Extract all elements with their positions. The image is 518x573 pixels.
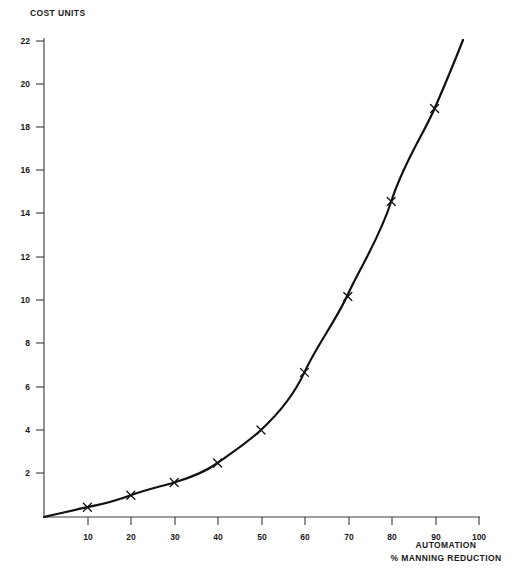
x-tick-label: 70 — [337, 532, 361, 542]
x-tick-label: 40 — [206, 532, 230, 542]
chart-container: COST UNITS — [0, 0, 518, 573]
x-tick-label: 20 — [119, 532, 143, 542]
marker-point — [431, 105, 439, 113]
y-tick-label: 4 — [10, 425, 30, 435]
x-axis-title-line1: AUTOMATION — [378, 540, 514, 550]
y-tick-label: 6 — [10, 382, 30, 392]
x-axis-title-line2: % MANNING REDUCTION — [378, 553, 514, 563]
y-tick-label: 10 — [10, 295, 30, 305]
y-tick-label: 20 — [10, 79, 30, 89]
x-tick-label: 30 — [163, 532, 187, 542]
x-axis-ticks — [88, 517, 479, 525]
y-tick-label: 14 — [10, 208, 30, 218]
y-tick-label: 18 — [10, 122, 30, 132]
y-tick-label: 2 — [10, 468, 30, 478]
marker-point — [214, 459, 222, 467]
y-tick-label: 12 — [10, 252, 30, 262]
data-point-markers — [83, 105, 438, 512]
data-series-line — [44, 40, 463, 517]
x-tick-label: 10 — [76, 532, 100, 542]
y-axis-ticks — [36, 41, 44, 473]
x-axis-title-block: AUTOMATION % MANNING REDUCTION — [378, 540, 514, 563]
y-tick-label: 8 — [10, 338, 30, 348]
marker-point — [257, 426, 265, 434]
marker-point — [300, 368, 308, 376]
y-tick-label: 22 — [10, 36, 30, 46]
axis-lines — [44, 38, 480, 517]
x-tick-label: 50 — [250, 532, 274, 542]
y-tick-label: 16 — [10, 165, 30, 175]
plot-area — [0, 0, 518, 573]
x-tick-label: 60 — [293, 532, 317, 542]
